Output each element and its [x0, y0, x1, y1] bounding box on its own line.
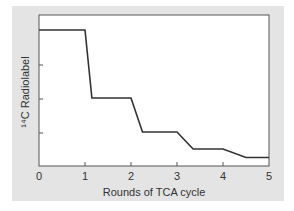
x-tick-label: 0: [36, 170, 42, 182]
chart-svg: 0 1 2 3 4 5 Rounds of TCA cycle ¹⁴C Radi…: [0, 0, 294, 211]
x-tick-label: 5: [266, 170, 272, 182]
x-axis-label: Rounds of TCA cycle: [103, 186, 206, 198]
x-tick-label: 2: [128, 170, 134, 182]
x-tick-label: 3: [174, 170, 180, 182]
y-axis-label: ¹⁴C Radiolabel: [19, 56, 31, 127]
x-tick-labels: 0 1 2 3 4 5: [36, 170, 272, 182]
x-tick-label: 4: [220, 170, 226, 182]
plot-area: [39, 15, 269, 166]
x-tick-label: 1: [82, 170, 88, 182]
